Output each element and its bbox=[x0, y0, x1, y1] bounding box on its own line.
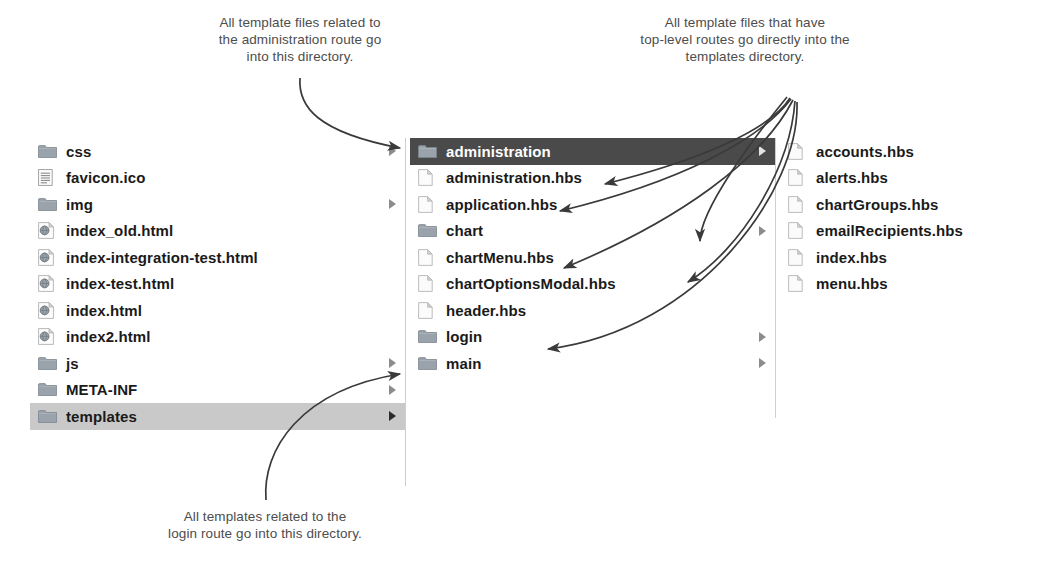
file-row[interactable]: favicon.ico bbox=[30, 165, 405, 192]
file-row[interactable]: index.hbs bbox=[780, 244, 1030, 271]
file-row[interactable]: META-INF bbox=[30, 377, 405, 404]
file-row[interactable]: js bbox=[30, 350, 405, 377]
file-row[interactable]: administration bbox=[410, 138, 775, 165]
file-row[interactable]: main bbox=[410, 350, 775, 377]
document-icon bbox=[38, 169, 57, 186]
disclosure-chevron-icon[interactable] bbox=[389, 411, 396, 421]
disclosure-chevron-icon[interactable] bbox=[759, 358, 766, 368]
folder-icon bbox=[418, 143, 437, 160]
folder-icon bbox=[418, 328, 437, 345]
folder-icon bbox=[38, 381, 57, 398]
file-icon bbox=[788, 222, 807, 239]
disclosure-chevron-icon[interactable] bbox=[759, 226, 766, 236]
file-row[interactable]: index2.html bbox=[30, 324, 405, 351]
callout-login-note: All templates related to the login route… bbox=[115, 508, 415, 542]
callout-administration-note: All template files related to the admini… bbox=[175, 14, 425, 65]
file-icon bbox=[418, 275, 437, 292]
html-icon bbox=[38, 249, 57, 266]
folder-icon bbox=[38, 196, 57, 213]
html-icon bbox=[38, 222, 57, 239]
file-row[interactable]: emailRecipients.hbs bbox=[780, 218, 1030, 245]
file-row[interactable]: index_old.html bbox=[30, 218, 405, 245]
folder-icon bbox=[418, 222, 437, 239]
file-row[interactable]: chartGroups.hbs bbox=[780, 191, 1030, 218]
disclosure-chevron-icon[interactable] bbox=[389, 385, 396, 395]
file-row-label: accounts.hbs bbox=[816, 143, 914, 160]
file-icon bbox=[788, 196, 807, 213]
file-row[interactable]: chart bbox=[410, 218, 775, 245]
file-row[interactable]: application.hbs bbox=[410, 191, 775, 218]
file-row[interactable]: chartMenu.hbs bbox=[410, 244, 775, 271]
file-row[interactable]: alerts.hbs bbox=[780, 165, 1030, 192]
callout-top-level-note: All template files that have top-level r… bbox=[590, 14, 900, 65]
file-row[interactable]: img bbox=[30, 191, 405, 218]
file-row-label: favicon.ico bbox=[66, 169, 145, 186]
file-row[interactable]: accounts.hbs bbox=[780, 138, 1030, 165]
file-row[interactable]: login bbox=[410, 324, 775, 351]
disclosure-chevron-icon[interactable] bbox=[389, 146, 396, 156]
file-row-label: chartMenu.hbs bbox=[446, 249, 554, 266]
file-row-label: login bbox=[446, 328, 482, 345]
file-row-label: administration bbox=[446, 143, 551, 160]
file-row-label: chartOptionsModal.hbs bbox=[446, 275, 616, 292]
file-icon bbox=[788, 249, 807, 266]
folder-icon bbox=[38, 355, 57, 372]
file-row[interactable]: menu.hbs bbox=[780, 271, 1030, 298]
file-row-label: img bbox=[66, 196, 93, 213]
file-row-label: templates bbox=[66, 408, 137, 425]
file-row-label: js bbox=[66, 355, 79, 372]
file-browser: cssfavicon.icoimgindex_old.htmlindex-int… bbox=[30, 138, 1030, 488]
file-row-label: application.hbs bbox=[446, 196, 558, 213]
file-icon bbox=[418, 249, 437, 266]
html-icon bbox=[38, 302, 57, 319]
folder-icon bbox=[38, 408, 57, 425]
file-row-label: chartGroups.hbs bbox=[816, 196, 938, 213]
file-icon bbox=[418, 196, 437, 213]
disclosure-chevron-icon[interactable] bbox=[759, 332, 766, 342]
file-row-label: index.html bbox=[66, 302, 142, 319]
file-row-label: header.hbs bbox=[446, 302, 526, 319]
html-icon bbox=[38, 275, 57, 292]
file-row[interactable]: css bbox=[30, 138, 405, 165]
finder-column-administration[interactable]: accounts.hbsalerts.hbschartGroups.hbsema… bbox=[780, 138, 1030, 418]
file-icon bbox=[788, 143, 807, 160]
file-row[interactable]: chartOptionsModal.hbs bbox=[410, 271, 775, 298]
file-row[interactable]: index.html bbox=[30, 297, 405, 324]
file-row-label: index_old.html bbox=[66, 222, 173, 239]
file-row-label: index-integration-test.html bbox=[66, 249, 258, 266]
file-icon bbox=[788, 275, 807, 292]
file-row-label: index-test.html bbox=[66, 275, 174, 292]
file-row-label: css bbox=[66, 143, 91, 160]
file-row[interactable]: administration.hbs bbox=[410, 165, 775, 192]
html-icon bbox=[38, 328, 57, 345]
finder-column-project-root[interactable]: cssfavicon.icoimgindex_old.htmlindex-int… bbox=[30, 138, 406, 486]
folder-icon bbox=[418, 355, 437, 372]
folder-icon bbox=[38, 143, 57, 160]
file-row[interactable]: index-integration-test.html bbox=[30, 244, 405, 271]
disclosure-chevron-icon[interactable] bbox=[389, 199, 396, 209]
file-row-label: META-INF bbox=[66, 381, 137, 398]
file-row-label: main bbox=[446, 355, 481, 372]
disclosure-chevron-icon[interactable] bbox=[759, 146, 766, 156]
file-row-label: emailRecipients.hbs bbox=[816, 222, 963, 239]
file-row-label: chart bbox=[446, 222, 483, 239]
file-row-label: menu.hbs bbox=[816, 275, 888, 292]
disclosure-chevron-icon[interactable] bbox=[389, 358, 396, 368]
file-row[interactable]: header.hbs bbox=[410, 297, 775, 324]
file-row-label: index.hbs bbox=[816, 249, 887, 266]
file-row[interactable]: index-test.html bbox=[30, 271, 405, 298]
file-icon bbox=[788, 169, 807, 186]
file-row-label: administration.hbs bbox=[446, 169, 582, 186]
file-row-label: index2.html bbox=[66, 328, 150, 345]
file-row-label: alerts.hbs bbox=[816, 169, 888, 186]
file-icon bbox=[418, 302, 437, 319]
file-row[interactable]: templates bbox=[30, 403, 405, 430]
finder-column-templates[interactable]: administrationadministration.hbsapplicat… bbox=[410, 138, 776, 418]
file-icon bbox=[418, 169, 437, 186]
